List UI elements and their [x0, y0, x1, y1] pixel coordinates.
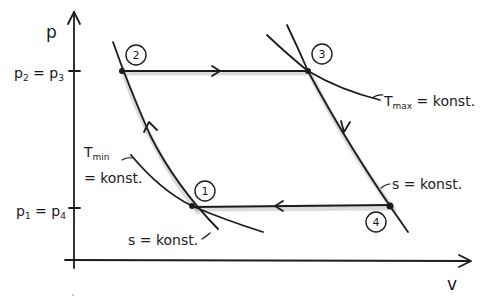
state-label-3: 3 [312, 44, 332, 64]
tick-label-p1-p4: p1 = p4 [16, 203, 66, 221]
state-point-1 [189, 203, 195, 209]
annotation-tmin: Tmin [83, 144, 110, 162]
svg-text:1: 1 [202, 185, 209, 198]
state-point-2 [119, 68, 125, 74]
annotation-s-right: s = konst. [392, 176, 462, 192]
svg-text:4: 4 [373, 216, 380, 229]
y-axis-label: p [46, 22, 57, 42]
state-point-4 [387, 203, 394, 210]
annotation-tmax: Tmax = konst. [383, 93, 475, 111]
y-axis [68, 12, 80, 268]
state-label-4: 4 [366, 212, 386, 232]
state-point-3 [305, 68, 311, 74]
svg-text:p1 = p4: p1 = p4 [16, 203, 66, 221]
svg-text:2: 2 [133, 49, 140, 62]
x-axis [65, 255, 471, 267]
state-label-1: 1 [195, 181, 215, 201]
svg-text:3: 3 [319, 48, 326, 61]
annotation-tmin-konst: = konst. [84, 170, 142, 186]
tick-label-p2-p3: p2 = p3 [14, 65, 64, 83]
annotation-s-left: s = konst. [128, 232, 198, 248]
state-label-2: 2 [126, 45, 146, 65]
x-axis-label: v [447, 274, 457, 294]
svg-text:p2 = p3: p2 = p3 [14, 65, 64, 83]
pv-diagram: p v p2 = p3 p1 = p4 2 3 [0, 0, 497, 299]
